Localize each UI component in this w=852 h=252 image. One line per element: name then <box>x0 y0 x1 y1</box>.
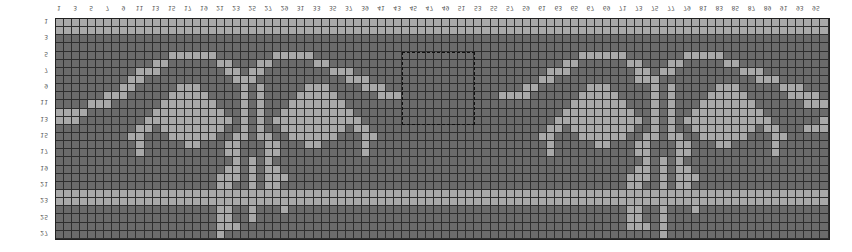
chart-cell[interactable] <box>820 43 828 51</box>
chart-cell[interactable] <box>88 68 96 76</box>
chart-cell[interactable] <box>289 100 297 108</box>
chart-cell[interactable] <box>145 35 153 43</box>
chart-cell[interactable] <box>241 117 249 125</box>
chart-cell[interactable] <box>507 231 515 239</box>
chart-cell[interactable] <box>732 174 740 182</box>
chart-cell[interactable] <box>740 214 748 222</box>
chart-cell[interactable] <box>804 141 812 149</box>
chart-cell[interactable] <box>249 174 257 182</box>
chart-cell[interactable] <box>64 190 72 198</box>
chart-cell[interactable] <box>563 52 571 60</box>
chart-cell[interactable] <box>796 19 804 27</box>
chart-cell[interactable] <box>418 223 426 231</box>
chart-cell[interactable] <box>788 84 796 92</box>
chart-cell[interactable] <box>748 84 756 92</box>
chart-cell[interactable] <box>442 19 450 27</box>
chart-cell[interactable] <box>370 84 378 92</box>
chart-cell[interactable] <box>177 109 185 117</box>
chart-cell[interactable] <box>314 109 322 117</box>
chart-cell[interactable] <box>780 141 788 149</box>
chart-cell[interactable] <box>96 52 104 60</box>
chart-cell[interactable] <box>684 100 692 108</box>
chart-cell[interactable] <box>635 206 643 214</box>
chart-cell[interactable] <box>225 117 233 125</box>
chart-cell[interactable] <box>354 27 362 35</box>
chart-cell[interactable] <box>386 190 394 198</box>
chart-cell[interactable] <box>273 27 281 35</box>
chart-cell[interactable] <box>161 84 169 92</box>
chart-cell[interactable] <box>297 19 305 27</box>
chart-cell[interactable] <box>772 166 780 174</box>
chart-cell[interactable] <box>297 35 305 43</box>
chart-cell[interactable] <box>104 109 112 117</box>
chart-cell[interactable] <box>88 60 96 68</box>
chart-cell[interactable] <box>281 133 289 141</box>
chart-cell[interactable] <box>700 60 708 68</box>
chart-cell[interactable] <box>273 60 281 68</box>
chart-cell[interactable] <box>386 43 394 51</box>
chart-cell[interactable] <box>289 76 297 84</box>
chart-cell[interactable] <box>322 52 330 60</box>
chart-cell[interactable] <box>780 198 788 206</box>
chart-cell[interactable] <box>700 223 708 231</box>
chart-cell[interactable] <box>523 109 531 117</box>
chart-cell[interactable] <box>788 206 796 214</box>
chart-cell[interactable] <box>169 174 177 182</box>
chart-cell[interactable] <box>201 27 209 35</box>
chart-cell[interactable] <box>249 68 257 76</box>
chart-cell[interactable] <box>635 43 643 51</box>
chart-cell[interactable] <box>804 125 812 133</box>
chart-cell[interactable] <box>241 157 249 165</box>
chart-cell[interactable] <box>120 109 128 117</box>
chart-cell[interactable] <box>724 231 732 239</box>
chart-cell[interactable] <box>136 198 144 206</box>
chart-cell[interactable] <box>684 133 692 141</box>
chart-cell[interactable] <box>402 27 410 35</box>
chart-cell[interactable] <box>740 100 748 108</box>
chart-cell[interactable] <box>692 76 700 84</box>
chart-cell[interactable] <box>233 35 241 43</box>
chart-cell[interactable] <box>635 231 643 239</box>
chart-cell[interactable] <box>482 43 490 51</box>
chart-cell[interactable] <box>491 223 499 231</box>
chart-cell[interactable] <box>120 19 128 27</box>
chart-cell[interactable] <box>305 19 313 27</box>
chart-cell[interactable] <box>595 198 603 206</box>
chart-cell[interactable] <box>273 214 281 222</box>
chart-cell[interactable] <box>820 76 828 84</box>
chart-cell[interactable] <box>297 43 305 51</box>
chart-cell[interactable] <box>128 174 136 182</box>
chart-cell[interactable] <box>651 117 659 125</box>
chart-cell[interactable] <box>289 141 297 149</box>
chart-cell[interactable] <box>410 214 418 222</box>
chart-cell[interactable] <box>386 174 394 182</box>
chart-cell[interactable] <box>491 190 499 198</box>
chart-cell[interactable] <box>354 109 362 117</box>
chart-cell[interactable] <box>354 141 362 149</box>
chart-cell[interactable] <box>724 182 732 190</box>
chart-cell[interactable] <box>346 52 354 60</box>
chart-cell[interactable] <box>354 157 362 165</box>
chart-cell[interactable] <box>193 76 201 84</box>
chart-cell[interactable] <box>378 60 386 68</box>
chart-cell[interactable] <box>64 174 72 182</box>
chart-cell[interactable] <box>515 109 523 117</box>
chart-cell[interactable] <box>201 60 209 68</box>
chart-cell[interactable] <box>314 68 322 76</box>
chart-cell[interactable] <box>756 84 764 92</box>
chart-cell[interactable] <box>241 35 249 43</box>
chart-cell[interactable] <box>96 68 104 76</box>
chart-cell[interactable] <box>120 43 128 51</box>
chart-cell[interactable] <box>466 231 474 239</box>
chart-cell[interactable] <box>555 206 563 214</box>
chart-cell[interactable] <box>563 198 571 206</box>
chart-cell[interactable] <box>724 84 732 92</box>
chart-cell[interactable] <box>668 182 676 190</box>
chart-cell[interactable] <box>386 76 394 84</box>
chart-cell[interactable] <box>611 109 619 117</box>
chart-cell[interactable] <box>458 174 466 182</box>
chart-cell[interactable] <box>305 76 313 84</box>
chart-cell[interactable] <box>120 166 128 174</box>
chart-cell[interactable] <box>796 190 804 198</box>
chart-cell[interactable] <box>112 68 120 76</box>
